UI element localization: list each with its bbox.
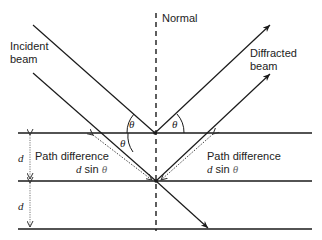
normal-label: Normal (162, 12, 197, 24)
incident-label-line1: Incident (10, 40, 49, 52)
path-diff-right-label: Path difference (207, 150, 281, 162)
angle-label-inner: θ (120, 137, 126, 149)
sin-text: sin (213, 163, 233, 175)
theta-symbol: θ (233, 163, 239, 175)
scatter-point-2 (154, 179, 158, 183)
angle-arc-inner (128, 133, 133, 152)
bragg-diffraction-diagram: Normal Incident beam Diffracted beam Pat… (0, 0, 322, 240)
spacing-label-bottom: d (18, 200, 24, 212)
spacing-label-top: d (18, 152, 24, 164)
theta-symbol: θ (102, 163, 108, 175)
sin-text: sin (82, 163, 102, 175)
diffracted-label-line1: Diffracted (250, 47, 297, 59)
path-diff-right-formula: d sin θ (207, 163, 239, 175)
incident-beam-1 (33, 25, 155, 133)
path-difference-right (161, 134, 213, 180)
angle-arc-diffracted (177, 114, 184, 133)
angle-label-diffracted: θ (172, 118, 178, 130)
path-diff-left-label: Path difference (35, 150, 109, 162)
transmitted-beam (156, 181, 208, 228)
scatter-point-1 (153, 131, 157, 135)
path-diff-left-formula: d sin θ (76, 163, 108, 175)
diffracted-beam-1 (155, 25, 270, 133)
incident-label-line2: beam (10, 53, 38, 65)
diffracted-label-line2: beam (250, 60, 278, 72)
angle-label-incident: θ (129, 118, 135, 130)
